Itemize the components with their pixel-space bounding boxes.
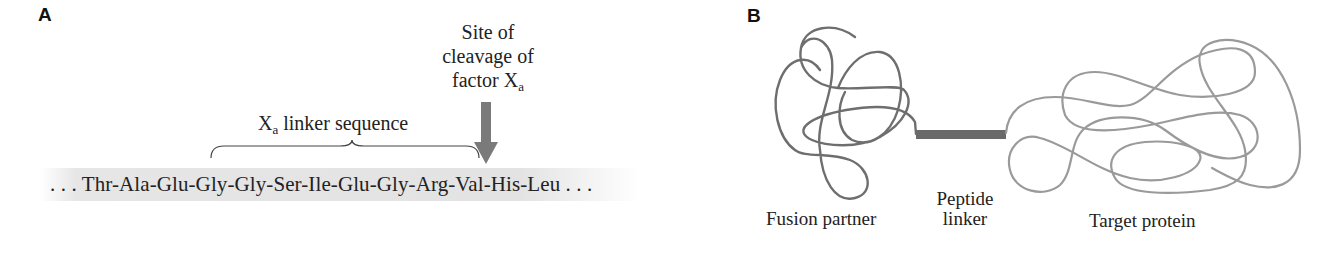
peptide-linker-line-2: linker — [931, 209, 999, 229]
target-protein-label: Target protein — [1089, 211, 1195, 230]
peptide-linker-bar — [916, 130, 1006, 139]
fusion-partner-label: Fusion partner — [766, 209, 876, 228]
cleavage-arrow-icon — [474, 102, 498, 164]
fusion-partner-icon — [776, 28, 916, 199]
target-protein-icon — [1006, 40, 1300, 193]
peptide-linker-label: Peptide linker — [931, 189, 999, 229]
peptide-linker-line-1: Peptide — [931, 189, 999, 209]
linker-brace-icon — [211, 140, 479, 158]
